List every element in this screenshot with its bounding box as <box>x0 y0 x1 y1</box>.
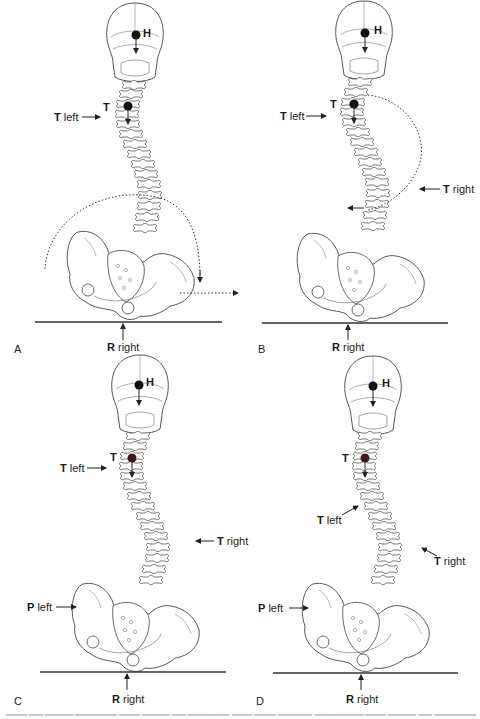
head-label: H <box>374 24 382 36</box>
figure-caption: ▬▬▬ ▬▬ ▬▬▬▬ ▬▬▬▬▬▬ ▬▬▬ ▬▬▬▬ ▬▬ ▬▬▬▬▬▬ ▬▬… <box>6 710 476 718</box>
spine-b <box>341 78 390 231</box>
p-left-label: P left <box>258 602 283 614</box>
t-right-label: T right <box>443 183 474 195</box>
panel-letter: C <box>14 695 22 707</box>
scoliosis-figure: H T T left R right A <box>0 0 480 719</box>
panel-c: H T T left T right P left R right C <box>0 360 240 715</box>
panel-d: H T T left T left T right P left R right… <box>240 360 480 715</box>
thorax-label: T <box>110 451 117 463</box>
head-label: H <box>146 376 154 388</box>
r-right-label: R right <box>346 693 378 705</box>
r-right-label: R right <box>112 693 144 705</box>
thorax-label: T <box>330 98 337 110</box>
t-left-mid-label: T left <box>317 514 341 526</box>
spine-a <box>116 81 162 233</box>
thorax-label: T <box>342 452 349 464</box>
spine-pelvis-drawing-d <box>240 360 480 715</box>
head-label: H <box>143 27 151 39</box>
head-label: H <box>382 377 390 389</box>
r-right-label: R right <box>332 341 364 353</box>
panel-a: H T T left R right A <box>0 0 240 355</box>
spine-pelvis-drawing-c <box>0 360 240 715</box>
t-left-label: T left <box>60 462 84 474</box>
t-left-label: T left <box>54 111 78 123</box>
spine-d <box>353 432 402 585</box>
r-right-label: R right <box>107 341 139 353</box>
panel-letter: D <box>256 695 264 707</box>
t-left-label: T left <box>280 110 304 122</box>
spine-c <box>120 432 170 585</box>
p-left-label: P left <box>27 601 52 613</box>
panel-letter: A <box>14 343 21 355</box>
panel-b: H T T left T right R right B <box>240 0 480 355</box>
t-right-label: T right <box>434 555 465 567</box>
panel-letter: B <box>258 343 265 355</box>
thorax-label: T <box>103 101 110 113</box>
spine-pelvis-drawing-b <box>240 0 480 355</box>
spine-pelvis-drawing-a <box>0 0 240 355</box>
